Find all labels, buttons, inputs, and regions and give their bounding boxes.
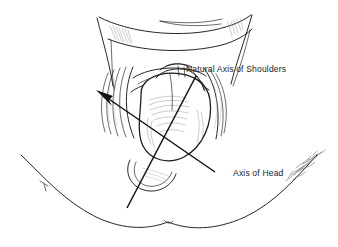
head-axis-label: Axis of Head — [233, 168, 284, 178]
medical-illustration-svg: Natural Axis of Shoulders Axis of Head — [0, 0, 338, 247]
shoulders-axis-label: Natural Axis of Shoulders — [186, 64, 286, 74]
illustration-canvas: Natural Axis of Shoulders Axis of Head — [0, 0, 338, 247]
